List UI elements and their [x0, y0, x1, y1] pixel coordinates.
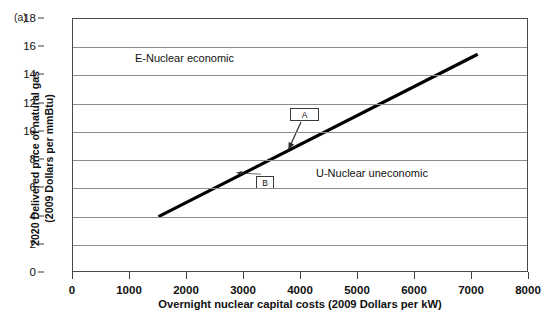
callout-box-a: A	[290, 108, 319, 121]
x-tick-label-4000: 4000	[287, 284, 313, 296]
figure-panel-a: (a) 2020 Delivered price of natural gas …	[0, 0, 558, 322]
x-tick-mark-1000	[129, 272, 130, 279]
y-tick-mark-16	[38, 46, 44, 47]
y-axis-title-line2: (2009 Dollars per mmBtu)	[42, 29, 56, 289]
y-tick-label-6: 6	[30, 181, 36, 193]
x-tick-mark-8000	[528, 272, 529, 279]
x-axis: 010002000300040005000600070008000	[0, 272, 558, 322]
x-tick-label-6000: 6000	[401, 284, 427, 296]
x-tick-label-1000: 1000	[116, 284, 142, 296]
y-tick-mark-14	[38, 74, 44, 75]
x-tick-label-0: 0	[69, 284, 75, 296]
x-tick-mark-4000	[300, 272, 301, 279]
region-label-uneconomic: U-Nuclear uneconomic	[316, 167, 428, 179]
y-tick-mark-8	[38, 159, 44, 160]
x-axis-title: Overnight nuclear capital costs (2009 Do…	[72, 298, 528, 311]
x-tick-mark-3000	[243, 272, 244, 279]
y-tick-label-18: 18	[23, 12, 36, 24]
annotation-arrowhead-b	[237, 171, 243, 175]
gridline-y-6	[73, 188, 527, 189]
gridline-y-2	[73, 245, 527, 246]
x-tick-label-7000: 7000	[458, 284, 484, 296]
x-tick-mark-5000	[357, 272, 358, 279]
gridline-y-12	[73, 104, 527, 105]
y-tick-label-16: 16	[23, 40, 36, 52]
y-tick-mark-18	[38, 18, 44, 19]
x-tick-label-3000: 3000	[230, 284, 256, 296]
y-tick-mark-2	[38, 243, 44, 244]
x-tick-label-2000: 2000	[173, 284, 199, 296]
gridline-y-8	[73, 160, 527, 161]
x-tick-mark-2000	[186, 272, 187, 279]
x-tick-mark-6000	[414, 272, 415, 279]
x-tick-label-8000: 8000	[515, 284, 541, 296]
callout-box-b: B	[256, 176, 274, 189]
y-tick-label-4: 4	[30, 210, 36, 222]
y-tick-mark-10	[38, 130, 44, 131]
y-tick-label-14: 14	[23, 68, 36, 80]
x-tick-label-5000: 5000	[344, 284, 370, 296]
x-tick-mark-0	[72, 272, 73, 279]
gridline-y-14	[73, 75, 527, 76]
y-tick-label-2: 2	[30, 238, 36, 250]
y-tick-mark-4	[38, 215, 44, 216]
y-tick-label-8: 8	[30, 153, 36, 165]
gridline-y-16	[73, 47, 527, 48]
y-tick-mark-6	[38, 187, 44, 188]
gridline-y-4	[73, 217, 527, 218]
region-label-economic: E-Nuclear economic	[135, 52, 234, 64]
y-tick-label-10: 10	[23, 125, 36, 137]
y-tick-label-12: 12	[23, 97, 36, 109]
plot-area: E-Nuclear economic U-Nuclear uneconomic …	[72, 18, 528, 272]
x-tick-mark-7000	[471, 272, 472, 279]
y-tick-mark-12	[38, 102, 44, 103]
gridline-y-10	[73, 132, 527, 133]
